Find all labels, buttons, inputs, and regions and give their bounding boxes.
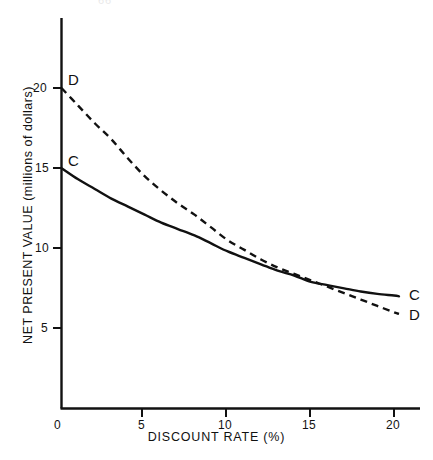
x-axis-title: DISCOUNT RATE (%) [0, 430, 433, 444]
curve-d-line [62, 88, 399, 314]
curve-c-start-label: C [68, 152, 79, 169]
curve-d-start-label: D [68, 71, 79, 88]
axes [61, 18, 421, 409]
curve-c-end-label: C [409, 286, 420, 303]
curve-d-end-label: D [409, 306, 420, 323]
x-axis-ticks [142, 409, 394, 418]
npv-discount-rate-chart [0, 0, 433, 460]
y-tick-label-15: 15 [35, 161, 49, 175]
y-axis-ticks [53, 88, 62, 328]
y-tick-label-10: 10 [35, 241, 49, 255]
y-tick-label-20: 20 [33, 81, 47, 95]
y-axis-title: NET PRESENT VALUE (millions of dollars) [21, 45, 35, 385]
chart-figure: 66 0 5 10 15 20 5 10 15 20 D C C D [0, 0, 433, 460]
curve-c-line [62, 168, 399, 296]
y-tick-label-5: 5 [41, 321, 48, 335]
series-group [62, 88, 399, 314]
